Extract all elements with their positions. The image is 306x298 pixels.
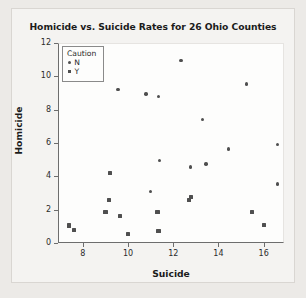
y-tick <box>54 76 58 77</box>
y-tick <box>54 110 58 111</box>
y-tick-label: 2 <box>31 205 51 214</box>
y-tick-label: 6 <box>31 138 51 147</box>
legend-item-label: Y <box>74 67 79 76</box>
square-marker-icon <box>68 70 72 74</box>
y-tick <box>54 243 58 244</box>
y-tick <box>54 210 58 211</box>
y-tick <box>54 143 58 144</box>
y-tick <box>54 176 58 177</box>
y-axis-label: Homicide <box>13 91 24 171</box>
legend-item-label: N <box>74 58 80 67</box>
x-tick-label: 12 <box>161 249 185 258</box>
x-tick <box>83 243 84 247</box>
x-tick-label: 14 <box>206 249 230 258</box>
x-tick-label: 10 <box>116 249 140 258</box>
x-axis-label: Suicide <box>58 268 284 279</box>
y-tick-label: 0 <box>31 238 51 247</box>
x-tick <box>128 243 129 247</box>
legend-item-y: Y <box>67 67 103 76</box>
x-tick-label: 16 <box>252 249 276 258</box>
x-tick <box>218 243 219 247</box>
y-tick-label: 4 <box>31 171 51 180</box>
legend-item-n: N <box>67 58 103 67</box>
y-tick-label: 12 <box>31 38 51 47</box>
legend-entries: NY <box>67 58 103 76</box>
chart-page: Homicide vs. Suicide Rates for 26 Ohio C… <box>0 0 306 298</box>
circle-marker-icon <box>68 61 71 64</box>
x-tick-label: 8 <box>71 249 95 258</box>
chart-title: Homicide vs. Suicide Rates for 26 Ohio C… <box>0 21 306 32</box>
x-tick <box>173 243 174 247</box>
y-tick <box>54 43 58 44</box>
x-tick <box>264 243 265 247</box>
legend: Caution NY <box>62 46 104 82</box>
legend-title: Caution <box>67 49 103 58</box>
y-tick-label: 8 <box>31 105 51 114</box>
y-tick-label: 10 <box>31 71 51 80</box>
